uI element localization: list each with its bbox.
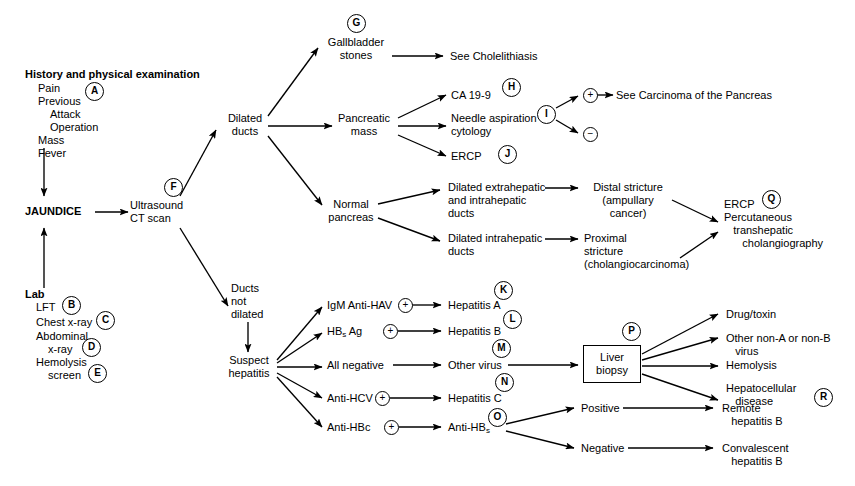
anti-hbs-label: Anti-HB — [448, 421, 486, 433]
node-ca-19-9: CA 19-9 — [451, 89, 491, 102]
node-pancreatic-mass: Pancreatic mass — [330, 112, 398, 138]
marker-c-icon: C — [96, 311, 115, 330]
history-item-attack: Attack — [50, 108, 81, 121]
anti-hbc-plus-icon: + — [384, 420, 399, 435]
marker-e-icon: E — [88, 364, 107, 383]
marker-h-icon: H — [502, 78, 521, 97]
node-dilated-intrahepatic: Dilated intrahepatic ducts — [448, 232, 542, 258]
marker-d-icon: D — [82, 338, 101, 357]
node-positive: Positive — [581, 402, 620, 415]
hbs-ag-label: HB — [327, 325, 342, 337]
lab-item-chest-xray: Chest x-ray — [36, 316, 92, 329]
node-ultrasound-ct: Ultrasound CT scan — [130, 199, 183, 225]
lab-item-abdominal: Abdominal — [36, 330, 88, 343]
node-other-non-a-non-b-virus: Other non-A or non-B virus — [726, 332, 831, 358]
lab-item-xray: x-ray — [48, 343, 72, 356]
node-jaundice: JAUNDICE — [25, 205, 81, 218]
node-anti-hcv: Anti-HCV — [327, 392, 373, 405]
igm-anti-hav-plus-icon: + — [398, 298, 413, 313]
hbs-ag-plus-icon: + — [383, 324, 398, 339]
node-ercp-pancreatic: ERCP — [451, 150, 482, 163]
node-distal-stricture: Distal stricture (ampullary cancer) — [584, 181, 672, 220]
history-item-previous: Previous — [38, 95, 81, 108]
marker-m-icon: M — [492, 339, 511, 358]
node-convalescent-hepatitis-b: Convalescent hepatitis B — [722, 442, 789, 468]
node-hepatitis-a: Hepatitis A — [448, 299, 501, 312]
node-other-virus: Other virus — [448, 359, 502, 372]
node-anti-hbs: Anti-HBs — [448, 421, 490, 437]
node-hbs-ag: HBs Ag — [327, 325, 362, 341]
history-item-fever: Fever — [38, 147, 66, 160]
node-hemolysis: Hemolysis — [726, 359, 777, 372]
marker-a-icon: A — [85, 82, 104, 101]
node-liver-biopsy: Liver biopsy — [583, 345, 641, 383]
marker-o-icon: O — [488, 408, 507, 427]
history-heading: History and physical examination — [25, 68, 200, 81]
node-remote-hepatitis-b: Remote hepatitis B — [722, 402, 783, 428]
node-see-carcinoma-pancreas: See Carcinoma of the Pancreas — [616, 89, 772, 102]
node-drug-toxin: Drug/toxin — [726, 308, 776, 321]
lab-item-hemolysis: Hemolysis — [36, 356, 87, 369]
node-proximal-stricture: Proximal stricture (cholangiocarcinoma) — [584, 232, 689, 271]
node-ducts-not-dilated: Ducts not dilated — [231, 282, 263, 321]
node-anti-hbc: Anti-HBc — [327, 421, 370, 434]
node-negative: Negative — [581, 442, 624, 455]
hbs-ag-suffix: Ag — [346, 325, 362, 337]
marker-q-icon: Q — [762, 190, 781, 209]
node-gallbladder-stones: Gallbladder stones — [320, 36, 392, 62]
node-needle-aspiration: Needle aspiration cytology — [451, 112, 537, 138]
marker-l-icon: L — [503, 310, 522, 329]
marker-b-icon: B — [62, 296, 81, 315]
history-item-pain: Pain — [38, 82, 60, 95]
node-dilated-ducts: Dilated ducts — [222, 112, 268, 138]
marker-j-icon: J — [498, 145, 517, 164]
lab-item-lft: LFT — [36, 301, 56, 314]
marker-i-icon: I — [537, 105, 556, 124]
anti-hcv-plus-icon: + — [375, 391, 390, 406]
node-all-negative: All negative — [327, 359, 384, 372]
marker-n-icon: N — [495, 373, 514, 392]
lab-item-screen: screen — [48, 369, 81, 382]
marker-f-icon: F — [164, 178, 183, 197]
node-normal-pancreas: Normal pancreas — [322, 198, 380, 224]
marker-r-icon: R — [814, 388, 833, 407]
minus-sign-icon: − — [583, 127, 598, 142]
node-see-cholelithiasis: See Cholelithiasis — [450, 50, 537, 63]
history-item-operation: Operation — [50, 121, 98, 134]
marker-p-icon: P — [622, 322, 641, 341]
node-hepatitis-b: Hepatitis B — [448, 325, 501, 338]
lab-heading: Lab — [25, 288, 45, 301]
anti-hbs-subscript: s — [486, 426, 490, 435]
node-hepatitis-c: Hepatitis C — [448, 392, 502, 405]
plus-sign-icon: + — [583, 88, 598, 103]
history-item-mass: Mass — [38, 134, 64, 147]
node-suspect-hepatitis: Suspect hepatitis — [220, 354, 278, 380]
node-dilated-extrahepatic: Dilated extrahepatic and intrahepatic du… — [448, 181, 545, 220]
marker-g-icon: G — [347, 14, 366, 33]
marker-k-icon: K — [494, 281, 513, 300]
node-igm-anti-hav: IgM Anti-HAV — [327, 299, 392, 312]
jaundice-algorithm-diagram: History and physical examination Pain Pr… — [0, 0, 855, 486]
